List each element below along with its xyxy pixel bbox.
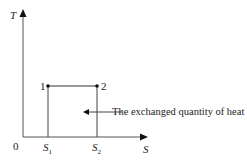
- annotation-arrow-icon: [83, 109, 89, 115]
- point-2-label: 2: [101, 80, 107, 92]
- y-axis-label: T: [10, 9, 17, 21]
- y-axis-arrow-icon: [20, 9, 27, 17]
- point-1-label: 1: [40, 80, 46, 92]
- tick-s1-label: S1: [43, 141, 53, 156]
- point-1: [46, 84, 50, 88]
- ts-diagram: T S 0 1 2 S1 S2 The exchanged quantity o…: [0, 0, 247, 163]
- x-axis-arrow-icon: [140, 134, 148, 141]
- tick-s2-label: S2: [92, 141, 102, 156]
- heat-annotation: The exchanged quantity of heat: [112, 106, 244, 117]
- origin-label: 0: [13, 140, 19, 152]
- point-2: [95, 84, 99, 88]
- x-axis-label: S: [143, 143, 149, 155]
